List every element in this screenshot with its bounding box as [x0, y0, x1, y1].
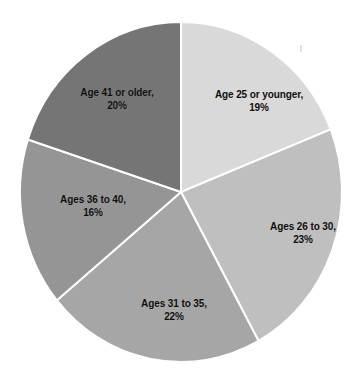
slice-label-value: 23%	[270, 233, 336, 246]
slice-label-name: Age 25 or younger,	[215, 88, 303, 101]
slice-label-name: Age 41 or older,	[80, 86, 153, 99]
slice-label-ages-31-to-35: Ages 31 to 35, 22%	[141, 297, 207, 323]
slice-label-ages-36-to-40: Ages 36 to 40, 16%	[60, 193, 126, 219]
pie-chart: Age 25 or younger, 19% Ages 26 to 30, 23…	[0, 0, 361, 374]
slice-label-name: Ages 36 to 40,	[60, 193, 126, 206]
slice-label-name: Ages 31 to 35,	[141, 297, 207, 310]
slice-label-value: 16%	[60, 206, 126, 219]
slice-label-name: Ages 26 to 30,	[270, 220, 336, 233]
slice-label-age-41-or-older: Age 41 or older, 20%	[80, 86, 153, 112]
slice-label-value: 22%	[141, 310, 207, 323]
slice-label-age-25-or-younger: Age 25 or younger, 19%	[215, 88, 303, 114]
slice-label-ages-26-to-30: Ages 26 to 30, 23%	[270, 220, 336, 246]
slice-label-value: 20%	[80, 99, 153, 112]
slice-label-value: 19%	[215, 101, 303, 114]
scan-artifact-mark	[300, 45, 302, 52]
